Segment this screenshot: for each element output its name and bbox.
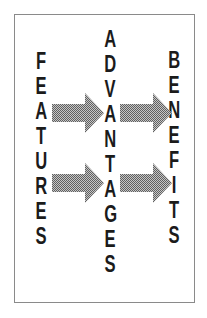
arrow-right-icon [120, 163, 172, 203]
page: FEATURES ADVANTAGES BENEFITS [0, 0, 207, 318]
arrow-right-icon [52, 93, 104, 133]
arrow-right-icon [52, 163, 104, 203]
arrow-right-icon [120, 93, 172, 133]
arrows-layer [0, 0, 207, 318]
